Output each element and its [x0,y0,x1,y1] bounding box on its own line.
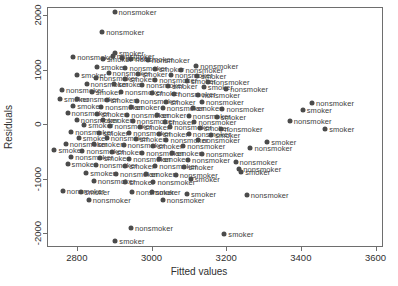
y-axis-tick-label: 0 [32,122,43,127]
data-point [233,159,238,164]
plot-data-area: nonsmokernonsmokersmokernonsmokernonsmok… [47,7,383,247]
data-point-label: smoker [245,167,270,176]
data-point [244,192,249,197]
data-point-label: smoker [228,229,253,238]
data-point [130,189,135,194]
x-axis-title: Fitted values [0,266,398,277]
y-axis-title: Residuals [3,105,14,149]
data-point-label: nonsmoker [294,117,332,126]
data-point [151,180,156,185]
data-point [100,30,105,35]
data-point-label: nonsmoker [119,7,157,16]
data-point [300,107,305,112]
data-point-label: nonsmoker [157,178,195,187]
x-axis-tick [77,247,78,251]
y-axis-tick [43,15,47,16]
data-point [153,164,158,169]
x-axis-tick [226,247,227,251]
data-point-label: nonsmoker [254,144,292,153]
data-point [196,92,201,97]
y-axis-tick [43,179,47,180]
data-point [91,178,96,183]
data-point [123,163,128,168]
data-point [58,96,63,101]
data-point [149,90,154,95]
x-axis-tick [376,247,377,251]
data-point [182,165,187,170]
data-point [129,105,134,110]
data-point [75,72,80,77]
x-axis-tick-label: 3000 [141,252,162,263]
data-point [287,119,292,124]
data-point [65,162,70,167]
data-point [149,190,154,195]
data-point [101,57,106,62]
data-point [323,127,328,132]
data-point [71,54,76,59]
data-point-label: smoker [307,105,332,114]
data-point [95,65,100,70]
data-point [86,198,91,203]
data-point-label: smoker [195,175,220,184]
data-point-label: nonsmoker [93,196,131,205]
data-point-label: smoker [329,125,354,134]
y-axis-tick [43,70,47,71]
data-point [112,9,117,14]
x-axis-tick-label: 3200 [216,252,237,263]
data-point [59,88,64,93]
data-point [248,146,253,151]
y-axis-tick-label: -2000 [32,221,43,245]
data-point-label: nonsmoker [135,224,173,233]
y-axis-tick-label: -1000 [32,167,43,191]
data-point [222,231,227,236]
data-point [239,169,244,174]
data-point [123,179,128,184]
data-point [143,172,148,177]
data-point-label: smoker [119,236,144,245]
data-point [69,129,74,134]
data-point [160,197,165,202]
data-point-label: nonsmoker [251,190,289,199]
data-point [65,111,70,116]
y-axis-tick-label: 2000 [32,5,43,26]
y-axis-tick [43,124,47,125]
x-axis-tick-label: 3400 [290,252,311,263]
data-point [113,238,118,243]
x-axis-tick-label: 3600 [365,252,386,263]
data-point-label: nonsmoker [106,28,144,37]
data-point [74,117,79,122]
x-axis-tick [301,247,302,251]
data-point-label: nonsmoker [167,195,205,204]
x-axis-tick [152,247,153,251]
data-point [78,189,83,194]
data-point [89,89,94,94]
data-point [84,170,89,175]
data-point [118,90,123,95]
data-point [190,106,195,111]
x-axis-tick-label: 2800 [66,252,87,263]
y-axis-tick-label: 1000 [32,59,43,80]
scatter-plot-figure: nonsmokernonsmokersmokernonsmokernonsmok… [0,0,398,286]
data-point [60,189,65,194]
data-point [52,148,57,153]
data-point [129,226,134,231]
data-point [93,162,98,167]
y-axis-tick [43,233,47,234]
